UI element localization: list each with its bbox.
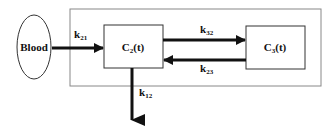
k32-edge: k32	[163, 23, 245, 40]
c3-node: C3(t)	[246, 26, 305, 69]
k21-label: k21	[74, 28, 88, 42]
k12-edge: k12	[132, 68, 153, 120]
compartment-diagram: Blood C2(t) C3(t) k21 k32 k23 k12	[0, 0, 334, 128]
c2-node: C2(t)	[104, 25, 163, 68]
c3-label: C3(t)	[264, 41, 287, 55]
blood-label: Blood	[20, 41, 48, 53]
k23-label: k23	[200, 62, 214, 76]
k21-edge: k21	[52, 28, 103, 48]
k32-label: k32	[200, 23, 214, 37]
blood-node: Blood	[17, 15, 51, 79]
k23-edge: k23	[164, 60, 246, 76]
k12-label: k12	[139, 86, 153, 100]
c2-label: C2(t)	[122, 41, 145, 55]
